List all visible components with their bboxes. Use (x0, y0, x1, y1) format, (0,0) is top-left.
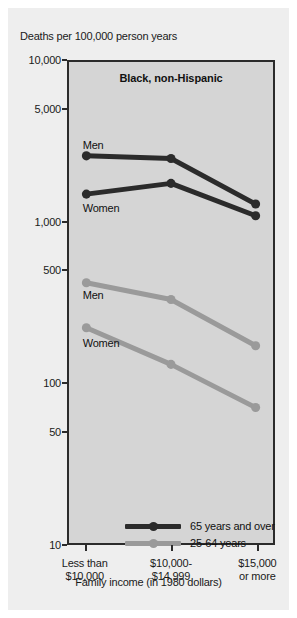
series-data-point (82, 278, 91, 287)
series-data-point (166, 360, 175, 369)
y-axis-tick-label: 10,000 (9, 54, 61, 66)
chart-legend: 65 years and over25-64 years (125, 517, 297, 551)
series-annotation: Women (83, 202, 120, 214)
x-axis-tick-mark (257, 545, 259, 551)
figure-panel: Deaths per 100,000 person years 10,0005,… (8, 8, 289, 610)
legend-label: 65 years and over (190, 520, 275, 532)
legend-marker-dot (149, 539, 158, 548)
series-data-point (82, 190, 91, 199)
series-annotation: Women (83, 337, 120, 349)
series-data-point (251, 199, 260, 208)
series-annotation: Men (83, 139, 104, 151)
x-axis-tick-mark (171, 545, 173, 551)
x-axis-tick-label-line: Less than (62, 557, 108, 570)
y-axis-tick-label: 10 (9, 539, 61, 551)
series-annotation: Men (83, 289, 104, 301)
y-axis-tick-label: 100 (9, 377, 61, 389)
x-axis-tick-mark (85, 545, 87, 551)
series-data-point (166, 295, 175, 304)
series-data-point (251, 403, 260, 412)
x-axis-tick-label-line: $15,000 (238, 557, 276, 570)
y-axis-caption: Deaths per 100,000 person years (20, 30, 177, 42)
y-axis-tick-label: 500 (9, 264, 61, 276)
legend-marker-dot (149, 522, 158, 531)
legend-item: 65 years and over (125, 517, 297, 534)
x-axis-caption: Family income (in 1980 dollars) (8, 576, 289, 588)
plot-area: Black, non-Hispanic MenWomenMenWomen 65 … (67, 60, 275, 545)
legend-swatch (125, 519, 181, 533)
y-axis-tick-label: 1,000 (9, 216, 61, 228)
series-data-point (166, 154, 175, 163)
series-data-point (166, 179, 175, 188)
x-axis-tick-label-line: $10,000- (150, 557, 192, 570)
series-data-point (251, 341, 260, 350)
legend-item: 25-64 years (125, 534, 297, 551)
series-data-point (251, 211, 260, 220)
series-lines-svg (69, 62, 273, 543)
legend-label: 25-64 years (190, 537, 246, 549)
series-data-point (82, 323, 91, 332)
series-data-point (82, 151, 91, 160)
y-axis-tick-label: 5,000 (9, 103, 61, 115)
y-axis-tick-label: 50 (9, 426, 61, 438)
